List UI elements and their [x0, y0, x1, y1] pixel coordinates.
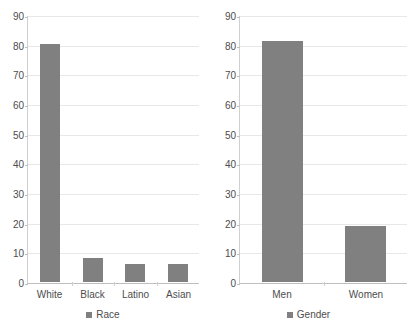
- category-label-latino: Latino: [114, 289, 157, 300]
- y-axis-tick-mark: [237, 106, 240, 107]
- race-chart: 9080706050403020100 WhiteBlackLatinoAsia…: [0, 0, 206, 331]
- y-axis-tick-label: 70: [13, 71, 24, 81]
- race-bars: [29, 16, 199, 282]
- y-axis-tick-mark: [25, 284, 28, 285]
- bar-slot: [29, 16, 72, 282]
- y-axis-tick-mark: [237, 225, 240, 226]
- race-legend: Race: [0, 310, 206, 320]
- y-axis-tick-mark: [25, 17, 28, 18]
- bar-men[interactable]: [262, 41, 304, 282]
- y-axis-tick-label: 10: [13, 249, 24, 259]
- bar-slot: [114, 16, 157, 282]
- category-label-men: Men: [240, 289, 324, 300]
- gender-legend-label: Gender: [297, 310, 330, 320]
- gender-category-labels: MenWomen: [240, 289, 408, 300]
- legend-swatch-icon: [86, 312, 92, 318]
- bar-white[interactable]: [40, 44, 60, 282]
- y-axis-tick-label: 30: [13, 190, 24, 200]
- y-axis-tick-label: 60: [13, 101, 24, 111]
- y-axis-tick-label: 50: [13, 131, 24, 141]
- y-axis-tick-mark: [25, 47, 28, 48]
- y-axis-tick-label: 60: [225, 101, 236, 111]
- x-axis-tick-mark: [324, 282, 325, 286]
- x-axis-tick-mark: [114, 282, 115, 286]
- bar-black[interactable]: [83, 258, 103, 282]
- y-axis-tick-mark: [237, 136, 240, 137]
- category-label-asian: Asian: [157, 289, 200, 300]
- gender-chart-title: [206, 0, 411, 10]
- bar-slot: [324, 16, 407, 282]
- gender-bars: [241, 16, 407, 282]
- x-axis-tick-mark: [72, 282, 73, 286]
- y-axis-tick-label: 10: [225, 249, 236, 259]
- charts-container: 9080706050403020100 WhiteBlackLatinoAsia…: [0, 0, 411, 331]
- y-axis-tick-mark: [25, 195, 28, 196]
- race-plot-frame: 9080706050403020100: [27, 16, 199, 284]
- race-category-labels: WhiteBlackLatinoAsian: [28, 289, 200, 300]
- y-axis-tick-label: 20: [13, 220, 24, 230]
- bar-slot: [72, 16, 115, 282]
- gender-legend: Gender: [206, 310, 411, 320]
- y-axis-tick-label: 80: [225, 42, 236, 52]
- bar-women[interactable]: [345, 226, 387, 282]
- y-axis-tick-mark: [25, 254, 28, 255]
- y-axis-tick-mark: [237, 76, 240, 77]
- category-label-women: Women: [324, 289, 408, 300]
- y-axis-tick-mark: [237, 17, 240, 18]
- race-plot-area: 9080706050403020100: [27, 16, 199, 284]
- y-axis-tick-mark: [25, 106, 28, 107]
- y-axis-tick-label: 90: [13, 12, 24, 22]
- y-axis-tick-mark: [237, 195, 240, 196]
- y-axis-tick-mark: [25, 225, 28, 226]
- y-axis-tick-mark: [237, 284, 240, 285]
- category-label-white: White: [28, 289, 71, 300]
- gender-plot-frame: 9080706050403020100: [239, 16, 407, 284]
- y-axis-tick-label: 0: [18, 279, 24, 289]
- y-axis-tick-mark: [237, 165, 240, 166]
- y-axis-tick-mark: [237, 254, 240, 255]
- y-axis-tick-mark: [25, 165, 28, 166]
- bar-slot: [157, 16, 200, 282]
- y-axis-tick-label: 40: [225, 160, 236, 170]
- y-axis-tick-label: 90: [225, 12, 236, 22]
- y-axis-tick-mark: [25, 76, 28, 77]
- y-axis-tick-mark: [237, 47, 240, 48]
- bar-slot: [241, 16, 324, 282]
- race-chart-title: [0, 0, 206, 10]
- bar-asian[interactable]: [168, 264, 188, 282]
- y-axis-tick-label: 80: [13, 42, 24, 52]
- y-axis-tick-label: 20: [225, 220, 236, 230]
- gender-plot-area: 9080706050403020100: [239, 16, 407, 284]
- x-axis-tick-mark: [157, 282, 158, 286]
- y-axis-tick-label: 70: [225, 71, 236, 81]
- y-axis-tick-label: 0: [230, 279, 236, 289]
- y-axis-tick-mark: [25, 136, 28, 137]
- y-axis-tick-label: 30: [225, 190, 236, 200]
- legend-swatch-icon: [287, 312, 293, 318]
- y-axis-tick-label: 40: [13, 160, 24, 170]
- bar-latino[interactable]: [125, 264, 145, 282]
- y-axis-tick-label: 50: [225, 131, 236, 141]
- category-label-black: Black: [71, 289, 114, 300]
- race-legend-label: Race: [96, 310, 119, 320]
- gender-chart: 9080706050403020100 MenWomen Gender: [206, 0, 411, 331]
